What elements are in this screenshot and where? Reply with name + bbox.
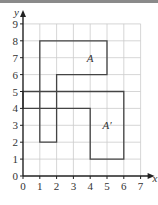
shape-label: A [86,52,94,64]
y-tick-label: 5 [13,86,19,98]
x-tick-label: 7 [138,180,144,192]
x-tick-label: 3 [71,180,77,192]
grid-lines [23,24,141,176]
shape-label: A′ [101,119,112,131]
x-tick-label: 6 [121,180,127,192]
x-tick-label: 5 [104,180,110,192]
y-tick-label: 9 [13,18,19,30]
y-tick-label: 8 [13,35,19,47]
coordinate-grid: 012345670123456789xyAA′ [0,0,158,205]
x-tick-label: 0 [20,180,26,192]
y-axis-label: y [13,6,19,18]
y-tick-label: 1 [13,153,19,165]
y-tick-label: 2 [13,136,19,148]
x-axis-label: x [152,172,158,184]
y-tick-label: 4 [13,102,19,114]
labels: 012345670123456789xyAA′ [13,6,158,192]
y-tick-label: 0 [13,170,19,182]
x-tick-label: 4 [87,180,93,192]
y-tick-label: 7 [13,52,19,64]
x-tick-label: 1 [37,180,43,192]
y-tick-label: 6 [13,69,19,81]
y-tick-label: 3 [13,119,19,131]
y-axis-arrow-icon [20,10,26,17]
x-tick-label: 2 [54,180,60,192]
